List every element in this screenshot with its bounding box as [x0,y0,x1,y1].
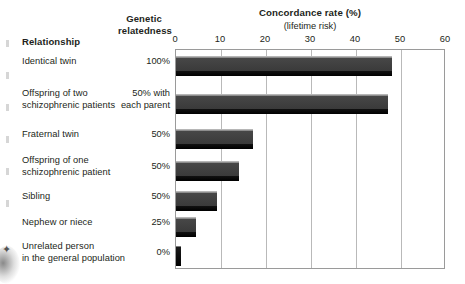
bar-3 [176,161,239,181]
x-tick-label-0: 0 [172,34,177,45]
page-scan-edge-artifacts: ✦ [0,0,18,284]
column-header-relationship: Relationship [22,36,80,48]
genetic-value-line: 100% [118,55,170,67]
row-label-line: Offspring of one [22,154,110,166]
bar-2 [176,129,253,149]
column-header-line: Genetic [118,13,170,25]
genetic-value-line: 50% [118,160,170,172]
row-label-line: schizophrenic patients [22,99,115,111]
genetic-value-offspring-one: 50% [118,160,170,172]
genetic-value-unrelated-person: 0% [118,246,170,258]
x-tick-label-50: 50 [395,34,405,45]
x-tick-label-20: 20 [260,34,270,45]
genetic-value-line: 50% [118,190,170,202]
row-label-unrelated-person: Unrelated person in the general populati… [22,240,125,264]
row-label-line: Identical twin [22,55,76,67]
row-label-line: Nephew or niece [22,216,93,228]
column-header-line: relatedness [118,25,170,37]
genetic-value-offspring-two: 50% with each parent [118,87,170,111]
gridline-10 [221,50,222,268]
genetic-value-line: 25% [118,216,170,228]
genetic-value-line: 50% [118,128,170,140]
row-label-line: schizophrenic patient [22,166,110,178]
x-axis-tick-labels: 0102030405060 [175,0,445,49]
chart-plot-area [175,49,445,269]
x-tick-label-30: 30 [305,34,315,45]
x-tick-label-60: 60 [440,34,450,45]
genetic-value-identical-twin: 100% [118,55,170,67]
row-label-line: Unrelated person [22,240,125,252]
row-label-identical-twin: Identical twin [22,55,76,67]
bar-0 [176,56,392,76]
x-tick-label-40: 40 [350,34,360,45]
row-label-line: Fraternal twin [22,128,79,140]
genetic-value-nephew-niece: 25% [118,216,170,228]
row-label-line: in the general population [22,252,125,264]
gridline-50 [401,50,402,268]
bar-1 [176,94,388,114]
genetic-value-sibling: 50% [118,190,170,202]
gridline-40 [356,50,357,268]
bar-4 [176,191,217,211]
genetic-value-line: 50% with [118,87,170,99]
gridline-20 [266,50,267,268]
scan-smudge [0,246,20,284]
gridline-30 [311,50,312,268]
row-label-line: Sibling [22,190,50,202]
row-label-fraternal-twin: Fraternal twin [22,128,79,140]
row-label-offspring-one: Offspring of one schizophrenic patient [22,154,110,178]
genetic-value-line: 0% [118,246,170,258]
row-label-line: Offspring of two [22,87,115,99]
row-label-sibling: Sibling [22,190,50,202]
bar-6 [176,246,181,266]
genetic-value-fraternal-twin: 50% [118,128,170,140]
column-header-genetic-relatedness: Genetic relatedness [118,13,170,36]
genetic-value-line: each parent [118,99,170,111]
column-relationship: Relationship Identical twin Offspring of… [22,0,132,284]
column-genetic-relatedness: Genetic relatedness 100% 50% with each p… [118,0,170,284]
figure-schizophrenia-concordance: ✦ Relationship Identical twin Offspring … [0,0,465,284]
x-tick-label-10: 10 [215,34,225,45]
row-label-offspring-two: Offspring of two schizophrenic patients [22,87,115,111]
row-label-nephew-niece: Nephew or niece [22,216,93,228]
scan-glyph: ✦ [2,243,11,256]
bar-5 [176,217,196,237]
